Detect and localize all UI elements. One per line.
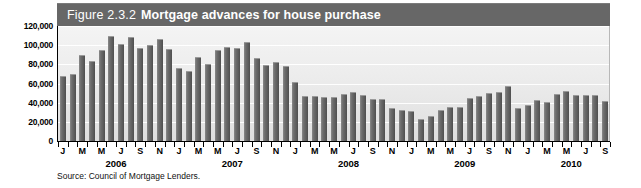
x-axis-month-label: M <box>214 146 222 156</box>
bar <box>302 96 308 141</box>
bar <box>186 71 192 141</box>
x-axis-month-label: N <box>389 146 396 156</box>
bar-cap <box>60 76 66 77</box>
bar <box>195 57 201 141</box>
bar-cap <box>186 71 192 72</box>
x-axis-month-label: M <box>563 146 571 156</box>
y-axis-tick-label: 20,000 <box>0 117 53 127</box>
bar-cap <box>428 116 434 117</box>
bar-cap <box>341 94 347 95</box>
bar <box>244 42 250 141</box>
bar <box>428 116 434 141</box>
bar <box>544 102 550 141</box>
bar-cap <box>147 45 153 46</box>
bar-cap <box>79 55 85 56</box>
bar-cap <box>592 95 598 96</box>
bar-cap <box>350 92 356 93</box>
x-axis-year-label: 2007 <box>222 158 243 169</box>
bar-cap <box>418 119 424 120</box>
bar <box>166 49 172 141</box>
x-axis-month-label: M <box>98 146 106 156</box>
source-note: Source: Council of Mortgage Lenders. <box>57 171 200 181</box>
bar-cap <box>467 98 473 99</box>
bar <box>408 111 414 141</box>
bar-cap <box>583 95 589 96</box>
bar-cap <box>534 100 540 101</box>
bar-cap <box>360 95 366 96</box>
bar <box>554 94 560 141</box>
bar-cap <box>525 105 531 106</box>
x-axis-month-label: S <box>137 146 143 156</box>
bar-cap <box>389 108 395 109</box>
bar <box>399 110 405 141</box>
bar-cap <box>496 92 502 93</box>
bar <box>60 76 66 141</box>
bar <box>602 101 608 141</box>
bar <box>89 61 95 141</box>
x-axis-month-label: N <box>273 146 280 156</box>
bar-cap <box>234 48 240 49</box>
x-axis-month-label: M <box>195 146 203 156</box>
bar-cap <box>321 97 327 98</box>
x-axis-month-label: J <box>583 146 588 156</box>
bar <box>350 92 356 141</box>
x-axis-year-label: 2006 <box>106 158 127 169</box>
x-axis-month-label: J <box>467 146 472 156</box>
bar-cap <box>408 111 414 112</box>
x-axis-month-label: S <box>486 146 492 156</box>
bar-cap <box>70 74 76 75</box>
bar <box>370 99 376 141</box>
page-title: Mortgage advances for house purchase <box>141 8 381 22</box>
bar <box>137 48 143 141</box>
x-axis-year-label: 2009 <box>454 158 475 169</box>
y-axis-tick-label: 100,000 <box>0 40 53 50</box>
bar <box>486 93 492 141</box>
bar <box>389 108 395 141</box>
bar-cap <box>89 61 95 62</box>
x-axis-month-label: M <box>330 146 338 156</box>
bar-cap <box>563 91 569 92</box>
bar-cap <box>476 96 482 97</box>
bar <box>312 96 318 141</box>
x-axis-month-label: J <box>118 146 123 156</box>
y-axis-tick-labels: 020,00040,00060,00080,000100,000120,000 <box>0 26 53 141</box>
bar <box>108 36 114 141</box>
bar-cap <box>370 99 376 100</box>
bar <box>321 97 327 141</box>
bar <box>525 105 531 141</box>
bar-cap <box>302 96 308 97</box>
figure-container: Figure 2.3.2 Mortgage advances for house… <box>0 0 641 188</box>
bar <box>147 45 153 141</box>
bar <box>283 66 289 141</box>
bar <box>563 91 569 141</box>
x-axis-month-label: J <box>177 146 182 156</box>
x-axis-month-label: N <box>156 146 163 156</box>
bar <box>341 94 347 141</box>
bar-cap <box>99 50 105 51</box>
bar-cap <box>273 62 279 63</box>
x-axis-month-label: J <box>409 146 414 156</box>
bar <box>224 47 230 141</box>
y-axis-tick-label: 0 <box>0 136 53 146</box>
bar-cap <box>457 107 463 108</box>
bar-cap <box>137 48 143 49</box>
bar-cap <box>554 94 560 95</box>
bar-cap <box>195 57 201 58</box>
bar-cap <box>331 97 337 98</box>
bar <box>534 100 540 141</box>
bar <box>592 95 598 141</box>
bar <box>583 95 589 141</box>
bar-cap <box>157 39 163 40</box>
x-axis-month-label: J <box>525 146 530 156</box>
bar <box>79 55 85 141</box>
x-axis-month-label: N <box>505 146 512 156</box>
bar <box>360 95 366 141</box>
bar-cap <box>283 66 289 67</box>
x-axis-month-label: M <box>543 146 551 156</box>
bar <box>176 68 182 141</box>
bar <box>128 37 134 141</box>
bar <box>505 86 511 141</box>
bar-cap <box>447 107 453 108</box>
bar-cap <box>399 110 405 111</box>
bar-cap <box>254 58 260 59</box>
